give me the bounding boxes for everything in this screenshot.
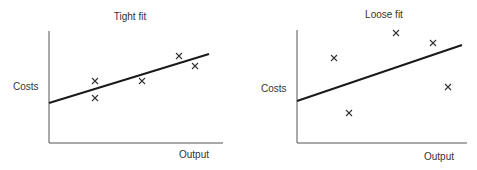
chart-title: Loose fit	[365, 9, 403, 20]
trend-line	[49, 54, 209, 103]
data-point-x-marker	[445, 84, 451, 90]
data-points	[92, 53, 198, 101]
chart-canvas: Tight fit Costs Output Loose fit Costs O…	[0, 0, 477, 170]
data-point-x-marker	[176, 53, 182, 59]
data-point-x-marker	[331, 55, 337, 61]
trend-line	[297, 45, 462, 101]
data-point-x-marker	[430, 40, 436, 46]
chart-title: Tight fit	[114, 11, 147, 22]
data-point-x-marker	[192, 63, 198, 69]
y-axis-label: Costs	[13, 81, 39, 92]
data-point-x-marker	[393, 30, 399, 36]
x-axis-label: Output	[179, 149, 209, 160]
data-point-x-marker	[346, 110, 352, 116]
chart-loose-fit: Loose fit Costs Output	[261, 9, 467, 162]
chart-tight-fit: Tight fit Costs Output	[13, 11, 223, 160]
x-axis-label: Output	[424, 151, 454, 162]
data-points	[331, 30, 451, 116]
data-point-x-marker	[92, 78, 98, 84]
y-axis-label: Costs	[261, 83, 287, 94]
data-point-x-marker	[92, 95, 98, 101]
data-point-x-marker	[139, 78, 145, 84]
